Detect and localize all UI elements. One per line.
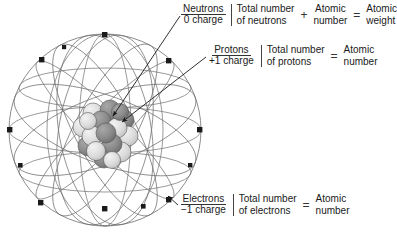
neutrons-label-row: Neutrons 0 charge Total number of neutro… — [181, 3, 397, 27]
electron-dot — [188, 163, 192, 167]
electron-dot — [38, 200, 43, 205]
protons-divider — [261, 45, 262, 67]
electron-dot — [62, 45, 66, 49]
electron-dot — [7, 127, 12, 132]
electron-dot — [197, 127, 202, 132]
protons-result-text: Atomic number — [344, 44, 378, 68]
protons-count-text: Total number of protons — [267, 44, 325, 68]
neutrons-term2-text: Atomic number — [313, 3, 347, 27]
proton-sphere — [96, 123, 116, 143]
neutrons-fraction: Neutrons 0 charge — [181, 4, 226, 27]
equals-operator: = — [353, 8, 360, 22]
protons-label-row: Protons +1 charge Total number of proton… — [207, 44, 378, 68]
electrons-label-row: Electrons −1 charge Total number of elec… — [179, 193, 350, 217]
electrons-charge-label: −1 charge — [179, 205, 228, 216]
protons-arrow — [122, 57, 206, 122]
electron-dot — [102, 32, 107, 37]
neutron-sphere — [80, 113, 97, 130]
electron-dot — [141, 204, 146, 209]
equals-operator: = — [303, 198, 310, 212]
electrons-result-text: Atomic number — [316, 193, 350, 217]
neutrons-divider — [231, 4, 232, 26]
neutron-sphere — [104, 152, 121, 169]
electron-dot — [18, 163, 23, 168]
equals-operator: = — [331, 49, 338, 63]
electron-dot — [102, 206, 107, 211]
plus-operator: + — [300, 8, 307, 22]
protons-fraction: Protons +1 charge — [207, 45, 256, 68]
electrons-divider — [233, 194, 234, 216]
electron-dot — [166, 58, 171, 63]
neutrons-charge-label: 0 charge — [182, 15, 225, 26]
neutrons-result-text: Atomic weight — [366, 3, 397, 27]
electrons-fraction: Electrons −1 charge — [179, 194, 228, 217]
neutrons-count-text: Total number of neutrons — [237, 3, 295, 27]
electron-dot — [39, 57, 44, 62]
neutron-sphere — [87, 142, 106, 161]
protons-charge-label: +1 charge — [207, 56, 256, 67]
electrons-count-text: Total number of electrons — [239, 193, 297, 217]
